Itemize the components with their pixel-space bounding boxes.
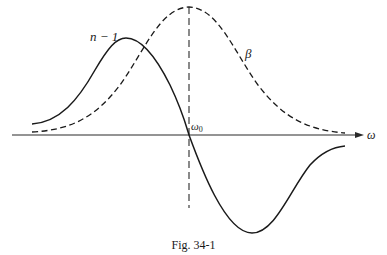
dispersion-absorption-diagram: n − 1 β ω0 ω xyxy=(0,0,387,255)
axis-arrowhead-icon xyxy=(355,132,364,138)
n-minus-1-label: n − 1 xyxy=(90,29,118,44)
beta-curve xyxy=(32,7,345,133)
beta-label: β xyxy=(244,46,252,61)
figure-caption: Fig. 34-1 xyxy=(0,238,387,253)
omega0-label: ω0 xyxy=(191,120,203,134)
omega-axis-label: ω xyxy=(367,128,375,142)
